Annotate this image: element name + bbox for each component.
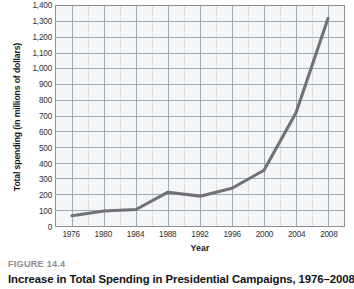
chart-container: Total spending (in millions of dollars) …: [0, 0, 354, 256]
y-tick-label: 300: [12, 175, 52, 184]
y-tick-label: 1,300: [12, 16, 52, 25]
y-tick-label: 700: [12, 112, 52, 121]
y-tick-label: 400: [12, 159, 52, 168]
plot-svg: [56, 6, 344, 226]
y-tick-label: 1,000: [12, 64, 52, 73]
figure-number-label: FIGURE 14.4: [8, 258, 352, 270]
x-axis-title: Year: [55, 243, 345, 253]
y-tick-label: 200: [12, 191, 52, 200]
y-tick-label: 600: [12, 127, 52, 136]
y-tick-label: 1,400: [12, 1, 52, 10]
y-tick-label: 900: [12, 80, 52, 89]
y-tick-label: 0: [12, 223, 52, 232]
y-tick-label: 1,200: [12, 32, 52, 41]
x-axis-tick-labels: 197619801984198819921996200020042008: [55, 230, 345, 244]
y-tick-label: 100: [12, 207, 52, 216]
y-tick-label: 800: [12, 96, 52, 105]
y-axis-tick-labels: 01002003004005006007008009001,0001,1001,…: [12, 0, 52, 232]
figure-container: Total spending (in millions of dollars) …: [0, 0, 354, 289]
y-tick-label: 500: [12, 143, 52, 152]
x-tick-label: 2008: [307, 230, 351, 239]
y-tick-label: 1,100: [12, 48, 52, 57]
figure-caption: FIGURE 14.4 Increase in Total Spending i…: [8, 258, 352, 286]
figure-title-text: Increase in Total Spending in Presidenti…: [8, 272, 352, 286]
plot-area: [55, 5, 345, 227]
